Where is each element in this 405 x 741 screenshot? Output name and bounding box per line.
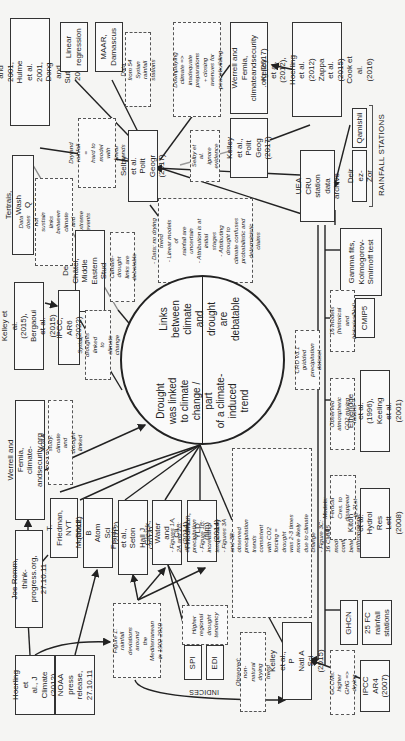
etheridge-box: Etheridge et al. (1996), Keeling et al. … <box>360 370 390 452</box>
higher-regional-note: Higher regional drought tendency <box>182 605 228 645</box>
indices-label: INDICES <box>182 686 226 698</box>
rainfall-stations-label: RAINFALL STATIONS <box>374 105 388 205</box>
gccms-note: GCCMs: higher GHG => drying <box>330 650 355 715</box>
rainfall-stations-bracket <box>369 105 373 207</box>
data-no-drying-text: - Data: no drying trend - Linear models … <box>150 217 262 264</box>
syrian-droughts-note: Syrian droughts linked to climate change <box>85 310 111 380</box>
kelley-pnas-box: Kelley et al., P Natl A Sci (2015) <box>282 622 312 700</box>
kelley-2012-box: Kelley et al. (2012), Hoerling et al. (2… <box>292 22 342 117</box>
cru-gridded-note: CRU v3.1 gridded precipitation dataset <box>295 330 320 390</box>
data-not-sustain-note: Data does not sustain links between clim… <box>35 178 73 266</box>
uea-cru-box: UEA CRU station data archive <box>300 150 335 222</box>
selby-box: Selby et al. Polit Geogr (2017) <box>128 130 158 202</box>
werrell-2012-box: Werrell and Femia, climate- andsecurity.… <box>15 400 45 520</box>
linear-regression-text: Linear regression <box>64 28 83 65</box>
qamishli-text: Qamishli <box>355 112 365 143</box>
gamma-fits-text: Gamma fits, Kolmogorov- Smirnoff test <box>347 239 376 284</box>
kelley-2012-text: Kelley et al. (2012), Hoerling et al. (2… <box>259 55 374 85</box>
sixteen-models-note: 16 models (historical and historicalNat) <box>330 290 355 352</box>
selby-ignore-note: Selby et al. ignore evidence <box>190 130 220 182</box>
fc-stations-box: 25 FC rainfall stations <box>362 600 392 645</box>
deir-ez-zor-box[interactable]: Deir ez-Zor <box>352 150 367 202</box>
ipcc-ar4-box: IPCC AR4 (2007) <box>360 660 390 712</box>
hulme-box: Hulme 1996 and 2001, Hulme et al. 2001, … <box>10 18 50 126</box>
spi-box: SPI <box>184 645 202 680</box>
figures-note: - Figures 1A, 2A and 2B: decreasing prec… <box>232 448 312 618</box>
ghcn-box: GHCN <box>340 600 358 645</box>
tertrais-box: Tertrais, Wash Q (2011) <box>12 155 34 255</box>
data-54-syrian-text: Data from 54 Syrian rainfall stations <box>119 59 156 80</box>
hoerling-2012-box: Hoerling et al., J Climate (2012) <box>15 655 55 715</box>
kelley-2017-box: Kelley et al., Polit Geog (2017) <box>230 118 268 178</box>
qamishli-box[interactable]: Qamishli <box>352 108 367 148</box>
kelley-2017-text: Kelley et al., Polit Geog (2017) <box>225 136 273 159</box>
noaa-press-box: NOAA press release, 27.10.11 <box>55 655 95 715</box>
edi-box: EDI <box>206 645 224 680</box>
gamma-fits-box: Gamma fits, Kolmogorov- Smirnoff test <box>340 228 382 296</box>
maar-text: MAAR, Damascus <box>99 28 118 66</box>
joe-romm-box: Joe Romm, think- progress.org, 27.10.11 <box>15 530 43 628</box>
kitoh-box: Kitoh et al. Hydrol Res Lett (2008) <box>360 488 390 558</box>
links-debatable-text-area: Links between climate and drought are de… <box>175 280 225 358</box>
selby-ignore-text: Selby et al. ignore evidence <box>190 144 220 169</box>
figure1-rainfall-note: Figure 1: rainfall deviations around the… <box>113 603 161 678</box>
climate-drought-debatable-note: Climate-drought links are debatable <box>110 232 135 302</box>
data-no-drying-note: - Data: no drying trend - Linear models … <box>158 198 253 283</box>
linear-regression-box: Linear regression <box>60 22 88 72</box>
drought-linked-text-area: Drought was linked to climate change / p… <box>145 362 260 440</box>
data-54-syrian-note: Data from 54 Syrian rainfall stations <box>125 32 151 107</box>
climate-drought-diagram: Hulme 1996 and 2001, Hulme et al. 2001, … <box>0 0 405 741</box>
observed-non-natural-note: Observed: non- natural drying trend <box>240 632 266 712</box>
noaa-study-note: NOAA study: climate and drought linked <box>48 400 73 485</box>
selby-text: Selby et al. Polit Geogr (2017) <box>119 154 167 177</box>
kelley-2015-bergaoui-box: Kelley et al. (2015), Bergaoui et al. (2… <box>14 282 44 370</box>
dryland-note: Dryland rainfall = hard to model with li… <box>78 118 116 188</box>
uea-cru-text: UEA CRU station data archive <box>294 173 342 199</box>
dryland-text: Dryland rainfall = hard to model with li… <box>67 142 127 163</box>
downplaying-note: Downplaying climate => inadequate prepar… <box>173 22 221 117</box>
downplaying-text: Downplaying climate => inadequate prepar… <box>171 50 223 88</box>
cmip5-box: CMIP5 <box>355 298 375 338</box>
